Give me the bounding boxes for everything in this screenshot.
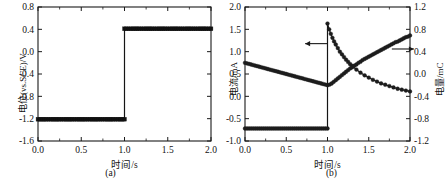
data-point (359, 71, 363, 75)
left-axis-arrow (305, 41, 310, 46)
x-tick-label: 0.0 (32, 145, 44, 155)
data-point (392, 86, 396, 90)
x-tick-label: 2.0 (404, 145, 416, 155)
series-line (245, 24, 410, 129)
panel-a-ylabel: 电位(vs.SCE)/V (16, 53, 29, 113)
panel-a-caption: (a) (0, 168, 221, 178)
y-tick-label: -0.5 (226, 114, 241, 124)
data-point (400, 88, 404, 92)
y-tick-label-right: -1.2 (414, 136, 429, 146)
y-tick-label: 0.8 (22, 2, 34, 12)
panel-b-ylabel-right: 电量/mC (433, 62, 446, 96)
x-tick-label: 1.5 (162, 145, 174, 155)
y-tick-label: 0.4 (22, 25, 34, 35)
x-tick-label: 1.5 (363, 145, 375, 155)
data-point (326, 127, 330, 131)
data-point (404, 89, 408, 93)
data-point (209, 27, 213, 31)
x-tick-label: 0.0 (239, 145, 251, 155)
data-point (375, 80, 379, 84)
x-tick-label: 0.5 (280, 145, 292, 155)
panel-a-plot: 0.00.51.01.52.00.80.40.0-0.4-0.8-1.2-1.6… (0, 0, 221, 187)
panel-b-caption: (b) (221, 168, 442, 178)
data-point (396, 87, 400, 91)
y-tick-label: 1.5 (229, 25, 241, 35)
y-tick-label: 1.0 (229, 47, 241, 57)
y-tick-label-right: 0.4 (414, 47, 426, 57)
data-point (334, 43, 338, 47)
data-point (387, 84, 391, 88)
data-point (408, 34, 412, 38)
data-point (354, 68, 358, 72)
panel-a: 电位(vs.SCE)/V 0.00.51.01.52.00.80.40.0-0.… (0, 0, 221, 187)
data-point (363, 73, 367, 77)
data-point (329, 32, 333, 36)
y-tick-label-right: -0.4 (414, 92, 429, 102)
data-point (379, 81, 383, 85)
data-point (326, 22, 330, 26)
data-point (327, 27, 331, 31)
y-tick-label-right: 0.0 (414, 69, 426, 79)
x-tick-label: 2.0 (205, 145, 217, 155)
y-tick-label: 2.0 (229, 2, 241, 12)
y-tick-label-right: 0.8 (414, 25, 426, 35)
panel-b-plot: 0.00.51.01.52.02.01.51.00.50.0-0.5-1.01.… (221, 0, 442, 187)
x-tick-label: 0.5 (75, 145, 87, 155)
y-tick-label: -1.6 (19, 136, 34, 146)
x-tick-label: 1.0 (119, 145, 131, 155)
y-tick-label: -1.2 (19, 114, 34, 124)
series-line (38, 29, 211, 119)
panel-b-ylabel-left: 电流/mA (227, 62, 240, 96)
data-point (371, 78, 375, 82)
y-tick-label: -1.0 (226, 136, 241, 146)
data-point (408, 90, 412, 94)
panel-b: 电流/mA 电量/mC 0.00.51.01.52.02.01.51.00.50… (221, 0, 442, 187)
y-tick-label-right: -0.8 (414, 114, 429, 124)
y-tick-label-right: 1.2 (414, 2, 426, 12)
data-point (331, 36, 335, 40)
data-point (123, 117, 127, 121)
x-tick-label: 1.0 (322, 145, 334, 155)
data-point (367, 76, 371, 80)
data-point (383, 83, 387, 87)
data-point (336, 46, 340, 50)
